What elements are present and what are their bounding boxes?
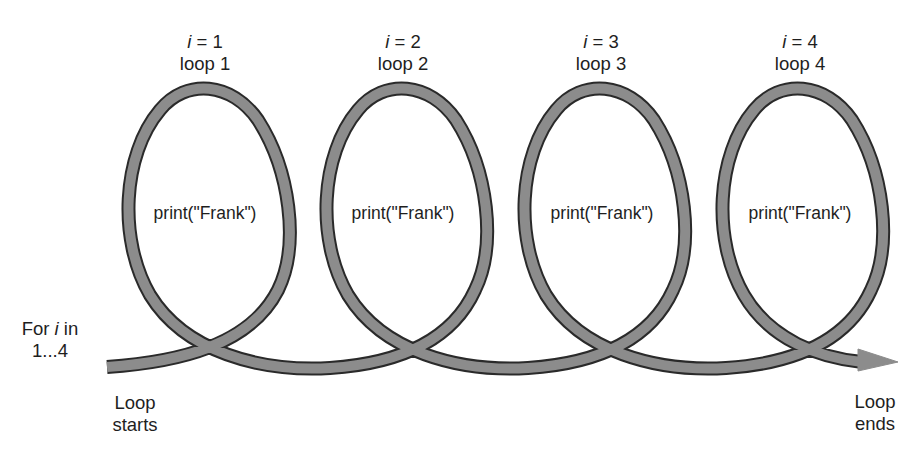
loop-2-label: i = 2 loop 2 (378, 31, 428, 75)
for-loop-header: For i in 1...4 (22, 318, 79, 362)
for-loop-range: 1...4 (22, 340, 79, 362)
for-loop-line1: For i in (22, 318, 79, 340)
loop-1-body: print("Frank") (154, 203, 257, 224)
loop-2-body: print("Frank") (352, 203, 455, 224)
loop-3-label: i = 3 loop 3 (576, 31, 626, 75)
loop-ends-label: Loop ends (854, 391, 895, 435)
spiral-path (107, 88, 883, 368)
loop-4-body: print("Frank") (749, 203, 852, 224)
loop-4-label: i = 4 loop 4 (775, 31, 825, 75)
loop-starts-label: Loop starts (112, 392, 157, 436)
loop-1-label: i = 1 loop 1 (180, 31, 230, 75)
arrow-head-icon (858, 349, 898, 371)
loop-3-body: print("Frank") (551, 203, 654, 224)
